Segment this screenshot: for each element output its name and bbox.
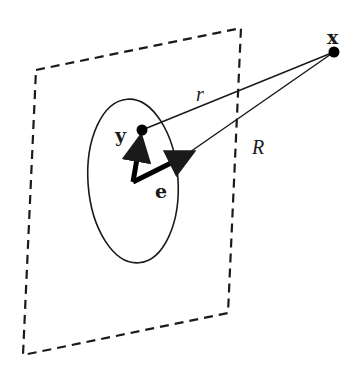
vector-e-arrow <box>133 157 183 182</box>
diagram-canvas: x y e r R <box>0 0 361 376</box>
point-x-dot <box>329 47 340 58</box>
label-e: e <box>155 180 167 202</box>
label-R: R <box>251 136 264 158</box>
point-y-dot <box>137 125 148 136</box>
label-x: x <box>327 26 339 48</box>
label-y: y <box>114 124 127 146</box>
label-r: r <box>196 83 204 105</box>
dashed-plane <box>23 28 241 355</box>
